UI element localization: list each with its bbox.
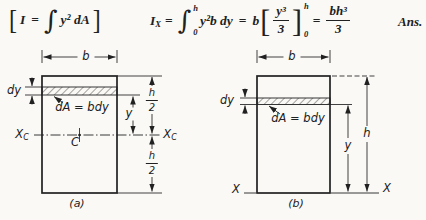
fig-b-dy-label: dy: [220, 95, 234, 107]
fig-a-dy-dimension: [25, 78, 42, 105]
fraction-numerator: h: [146, 150, 158, 164]
fig-a-width-label: b: [79, 51, 92, 63]
figure-a-drawing: [25, 50, 162, 193]
fig-b-axis-label-right: X: [383, 183, 391, 195]
fig-b-y-label: y: [342, 140, 355, 152]
fig-b-axis-label-left: X: [232, 184, 240, 196]
fig-a-differential-strip: [42, 87, 117, 95]
fig-a-upper-half-label: h 2: [144, 86, 160, 114]
fig-b-dy-dimension: [240, 89, 257, 115]
fig-a-axis-label-right: XC: [163, 129, 176, 142]
fig-a-axis-label-left: XC: [15, 129, 28, 142]
axis-subscript: C: [171, 133, 177, 142]
fig-a-caption: (a): [69, 198, 84, 209]
axis-base: X: [15, 127, 23, 141]
fig-b-rectangle: [257, 76, 330, 193]
fraction-denominator: 2: [149, 101, 155, 114]
fig-b-differential-strip: [257, 98, 330, 105]
fig-a-centroidal-axis: [34, 128, 160, 142]
axis-base: X: [163, 127, 171, 141]
fig-a-strip-label: dA = bdy: [55, 102, 109, 114]
fig-a-dy-label: dy: [7, 85, 21, 97]
fig-b-width-label: b: [285, 51, 298, 63]
fig-b-height-label: h: [360, 128, 373, 140]
fig-a-y-label: y: [126, 108, 133, 120]
fig-a-centroid-label: C: [71, 137, 79, 149]
fig-a-lower-half-label: h 2: [144, 149, 160, 177]
fig-b-caption: (b): [288, 198, 304, 209]
textbook-figure-page: [ I = ∫ y² dA ] I X = ∫ h 0 y²b dy = b […: [0, 0, 426, 220]
fig-b-strip-label: dA = bdy: [271, 113, 325, 125]
fraction-denominator: 2: [149, 164, 155, 177]
fraction-numerator: h: [146, 87, 158, 101]
axis-subscript: C: [23, 133, 29, 142]
